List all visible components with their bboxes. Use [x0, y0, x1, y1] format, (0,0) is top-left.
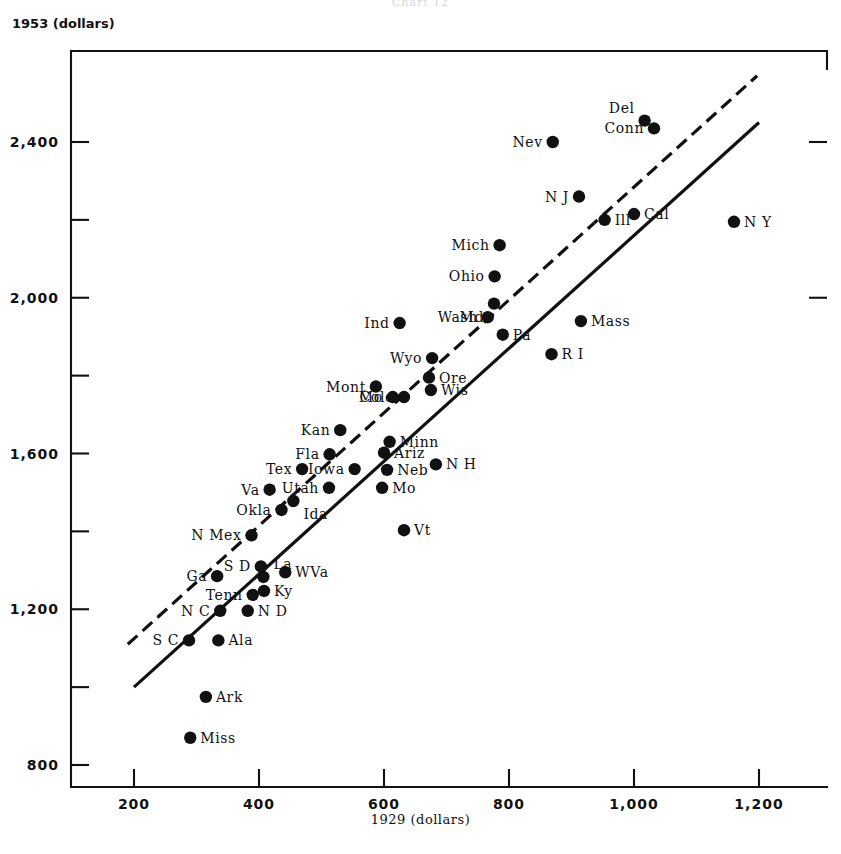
data-point-label: Colo: [360, 389, 394, 405]
data-point: [200, 691, 212, 703]
data-point: [488, 270, 500, 282]
data-point: [242, 605, 254, 617]
scatter-plot-figure: Chart 12 1953 (dollars) 8001,2001,6002,0…: [0, 0, 841, 854]
data-point: [497, 329, 509, 341]
data-point-label: S C: [152, 632, 179, 648]
data-point: [211, 570, 223, 582]
data-point-label: Mass: [591, 313, 630, 329]
data-point-label: Ida: [303, 506, 328, 522]
data-point: [245, 529, 257, 541]
data-point-label: Neb: [397, 462, 428, 478]
data-point-label: Ark: [215, 689, 243, 705]
data-point-label: Mo: [392, 480, 416, 496]
data-point: [573, 190, 585, 202]
x-tick-label-1000: 1,000: [609, 796, 658, 812]
data-point: [214, 605, 226, 617]
data-point-label: Fla: [295, 446, 319, 462]
y-tick-label-1600: 1,600: [10, 446, 59, 462]
data-point: [258, 585, 270, 597]
data-point-label: Utah: [282, 480, 319, 496]
data-point: [398, 524, 410, 536]
x-tick-label-800: 800: [493, 796, 525, 812]
data-point-label: Wyo: [390, 350, 422, 366]
x-axis-caption: 1929 (dollars): [0, 812, 841, 827]
data-point-label: WVa: [295, 564, 328, 580]
plot-canvas: 8001,2001,6002,0002,4002004006008001,000…: [0, 0, 841, 854]
data-point: [423, 371, 435, 383]
data-point: [255, 560, 267, 572]
data-point-label: Nev: [513, 134, 543, 150]
data-point-label: Tenn: [206, 587, 243, 603]
data-point: [263, 484, 275, 496]
data-point: [545, 348, 557, 360]
x-tick-label-200: 200: [118, 796, 150, 812]
data-point-label: Miss: [200, 730, 236, 746]
data-point: [398, 391, 410, 403]
data-point: [383, 436, 395, 448]
y-tick-label-1200: 1,200: [10, 601, 59, 617]
data-point: [430, 458, 442, 470]
data-point-label: S D: [224, 558, 251, 574]
data-point: [628, 208, 640, 220]
data-point: [348, 463, 360, 475]
data-point-label: Ohio: [449, 268, 485, 284]
data-point: [323, 448, 335, 460]
data-point-label: Ore: [439, 370, 467, 386]
data-point-label: R I: [562, 346, 584, 362]
data-point: [184, 732, 196, 744]
data-point: [598, 214, 610, 226]
data-point: [493, 239, 505, 251]
data-point-label: Ky: [274, 583, 293, 599]
data-point: [378, 447, 390, 459]
data-point-label: Minn: [400, 434, 439, 450]
data-point-label: Kan: [301, 422, 331, 438]
data-point-label: Okla: [236, 502, 271, 518]
data-point: [323, 482, 335, 494]
data-point: [247, 589, 259, 601]
data-point: [381, 464, 393, 476]
x-tick-label-400: 400: [243, 796, 275, 812]
data-point-label: Ind: [364, 315, 389, 331]
data-point: [393, 317, 405, 329]
data-point-label: Md: [460, 309, 485, 325]
data-point: [183, 634, 195, 646]
data-point-label: N Mex: [191, 527, 241, 543]
data-point-label: Del: [609, 100, 635, 116]
data-point-label: Pa: [513, 327, 531, 343]
x-tick-label-1200: 1,200: [734, 796, 783, 812]
data-point-label: Vt: [413, 522, 431, 538]
data-point-label: Ala: [227, 632, 253, 648]
data-point-label: Va: [240, 482, 259, 498]
data-point-label: Ga: [186, 568, 207, 584]
data-point: [648, 122, 660, 134]
data-point: [212, 634, 224, 646]
data-point: [279, 566, 291, 578]
data-point-label: N C: [181, 603, 210, 619]
data-point: [334, 424, 346, 436]
data-point-label: Cal: [644, 206, 669, 222]
data-point: [275, 504, 287, 516]
data-point: [728, 216, 740, 228]
data-point: [425, 384, 437, 396]
dashed-regression-line: [128, 76, 757, 644]
data-point: [488, 297, 500, 309]
y-tick-label-800: 800: [27, 757, 59, 773]
data-point: [287, 495, 299, 507]
data-point-label: Conn: [604, 120, 644, 136]
data-point-label: N H: [446, 456, 477, 472]
data-point: [547, 136, 559, 148]
data-point-label: N D: [258, 603, 288, 619]
data-point-label: Mich: [452, 237, 490, 253]
data-point-label: Iowa: [308, 461, 345, 477]
data-point-label: Tex: [266, 461, 292, 477]
data-point: [257, 571, 269, 583]
data-point: [376, 482, 388, 494]
y-tick-label-2400: 2,400: [10, 134, 59, 150]
data-point: [296, 463, 308, 475]
data-point: [575, 315, 587, 327]
x-tick-label-600: 600: [368, 796, 400, 812]
y-tick-label-2000: 2,000: [10, 290, 59, 306]
data-point: [426, 352, 438, 364]
data-point-label: N J: [545, 189, 569, 205]
data-point-label: N Y: [744, 214, 772, 230]
